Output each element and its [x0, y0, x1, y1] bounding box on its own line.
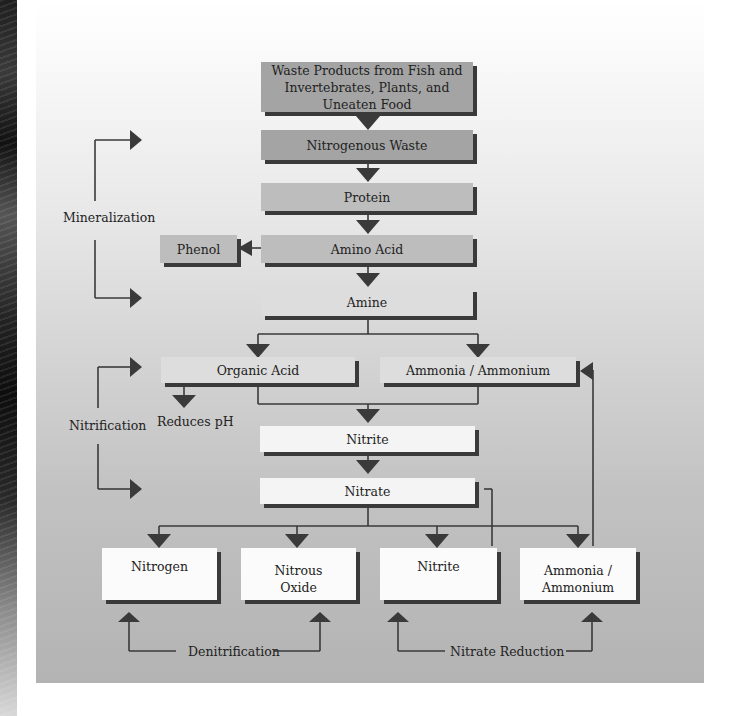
nitrogenous-waste-label: Nitrogenous Waste [307, 137, 428, 154]
protein-box: Protein [261, 183, 473, 211]
protein-label: Protein [344, 189, 390, 206]
nitrate-label: Nitrate [345, 483, 391, 500]
nitrous-oxide-box: Nitrous Oxide [241, 548, 356, 600]
nitrification-label: Nitrification [69, 418, 146, 433]
phenol-box: Phenol [160, 235, 237, 263]
nitrous-oxide-line1: Nitrous [275, 562, 323, 579]
ammonia-bottom-line1: Ammonia / [544, 562, 612, 579]
ammonia-bottom-line2: Ammonium [542, 579, 614, 596]
amine-label: Amine [347, 294, 387, 311]
nitrate-box: Nitrate [260, 478, 475, 504]
nitrite-bottom-box: Nitrite [380, 548, 497, 600]
waste-products-line1: Waste Products from Fish and [272, 62, 463, 79]
waste-products-box: Waste Products from Fish and Invertebrat… [261, 62, 473, 112]
organic-acid-label: Organic Acid [217, 362, 300, 379]
nitrous-oxide-line2: Oxide [280, 579, 317, 596]
amine-box: Amine [261, 288, 473, 316]
nitrogen-label: Nitrogen [131, 558, 188, 575]
waste-products-line2: Invertebrates, Plants, and Uneaten Food [261, 79, 473, 113]
nitrogen-box: Nitrogen [102, 548, 217, 600]
nitrite-box: Nitrite [260, 426, 475, 452]
ammonia-ammonium-box: Ammonia / Ammonium [380, 357, 576, 383]
ammonia-ammonium-label: Ammonia / Ammonium [406, 362, 550, 379]
amino-acid-box: Amino Acid [261, 235, 473, 263]
mineralization-label: Mineralization [63, 210, 155, 225]
denitrification-label: Denitrification [188, 644, 280, 659]
nitrite-label: Nitrite [346, 431, 388, 448]
nitrogenous-waste-box: Nitrogenous Waste [261, 130, 473, 160]
reduces-ph-label: Reduces pH [157, 414, 234, 429]
nitrite-bottom-label: Nitrite [417, 558, 459, 575]
nitrate-reduction-label: Nitrate Reduction [450, 644, 564, 659]
amino-acid-label: Amino Acid [331, 241, 403, 258]
phenol-label: Phenol [177, 241, 220, 258]
ammonia-bottom-box: Ammonia / Ammonium [520, 548, 636, 600]
organic-acid-box: Organic Acid [161, 357, 355, 383]
